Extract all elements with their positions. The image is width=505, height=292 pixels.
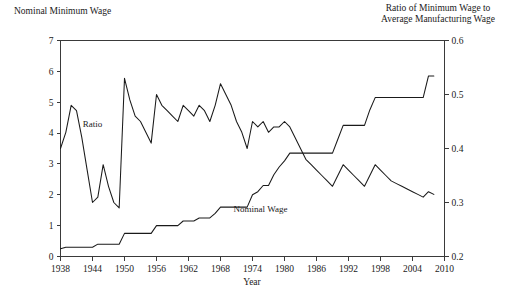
- left-axis-tick-label: 0: [49, 252, 54, 262]
- x-axis-tick-label: 1938: [51, 264, 70, 274]
- series-line-nominal-wage: [61, 76, 434, 249]
- right-axis-tick-label: 0.4: [452, 144, 464, 154]
- x-axis-tick-label: 1962: [179, 264, 198, 274]
- annotation-nominal-wage: Nominal Wage: [234, 204, 288, 214]
- x-axis-tick-label: 2004: [403, 264, 422, 274]
- right-axis-tick-label: 0.5: [452, 90, 464, 100]
- axes-group: [57, 41, 449, 261]
- tick-labels-group: 012345670.20.30.40.50.619381944195019561…: [49, 36, 464, 274]
- x-axis-tick-label: 1956: [147, 264, 166, 274]
- x-axis-tick-label: 1944: [83, 264, 102, 274]
- left-axis-tick-label: 5: [49, 98, 54, 108]
- x-axis-tick-label: 1980: [275, 264, 294, 274]
- annotations-group: RatioNominal Wage: [83, 119, 288, 214]
- series-group: [61, 76, 434, 249]
- plot-svg: 012345670.20.30.40.50.619381944195019561…: [0, 0, 505, 292]
- right-axis-tick-label: 0.3: [452, 198, 464, 208]
- left-axis-tick-label: 1: [49, 221, 54, 231]
- left-axis-tick-label: 7: [49, 36, 54, 46]
- right-axis-tick-label: 0.2: [452, 252, 464, 262]
- x-axis-tick-label: 1992: [339, 264, 358, 274]
- x-axis-tick-label: 2010: [435, 264, 454, 274]
- x-axis-tick-label: 1974: [243, 264, 262, 274]
- x-axis-tick-label: 1986: [307, 264, 326, 274]
- x-axis-label: Year: [243, 277, 261, 287]
- chart-root: Nominal Minimum Wage Ratio of Minimum Wa…: [0, 0, 505, 292]
- left-axis-tick-label: 4: [49, 128, 54, 138]
- right-axis-tick-label: 0.6: [452, 36, 464, 46]
- left-axis-tick-label: 6: [49, 67, 54, 77]
- left-axis-tick-label: 3: [49, 159, 54, 169]
- annotation-ratio: Ratio: [83, 119, 103, 129]
- x-axis-tick-label: 1950: [115, 264, 134, 274]
- x-axis-tick-label: 1998: [371, 264, 390, 274]
- x-axis-tick-label: 1968: [211, 264, 230, 274]
- left-axis-tick-label: 2: [49, 190, 54, 200]
